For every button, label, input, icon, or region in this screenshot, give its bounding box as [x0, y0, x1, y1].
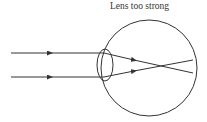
eye-diagram	[0, 0, 207, 122]
lower-ray	[11, 60, 193, 77]
upper-ray	[11, 53, 193, 73]
lens	[97, 49, 113, 81]
